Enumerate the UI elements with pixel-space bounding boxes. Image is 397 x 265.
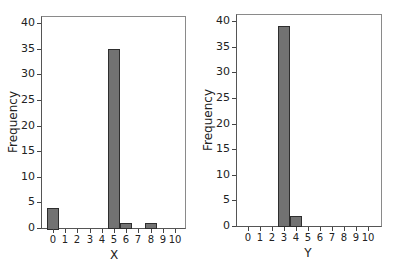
x-tick (344, 227, 345, 231)
y-tick (232, 226, 236, 227)
x-tick (260, 227, 261, 231)
y-tick-label: 35 (13, 43, 35, 54)
x-tick (102, 229, 103, 233)
y-tick (37, 49, 41, 50)
y-tick (232, 47, 236, 48)
y-axis-title: Frequency (201, 80, 215, 160)
histogram-bar (290, 216, 302, 227)
x-tick (138, 229, 139, 233)
x-tick (320, 227, 321, 231)
x-tick (151, 229, 152, 233)
y-tick-label: 40 (208, 15, 230, 26)
y-tick (37, 228, 41, 229)
x-tick (65, 229, 66, 233)
x-tick (284, 227, 285, 231)
x-tick (90, 229, 91, 233)
x-tick (126, 229, 127, 233)
histogram-bar (278, 26, 290, 227)
histogram-bar (108, 49, 120, 229)
y-tick (232, 124, 236, 125)
x-tick (175, 229, 176, 233)
y-tick-label: 0 (208, 220, 230, 231)
x-tick (77, 229, 78, 233)
plot-frame (236, 14, 382, 227)
x-tick (163, 229, 164, 233)
y-tick (37, 100, 41, 101)
y-tick (232, 149, 236, 150)
x-tick (368, 227, 369, 231)
y-tick-label: 35 (208, 41, 230, 52)
y-tick-label: 40 (13, 17, 35, 28)
y-tick-label: 10 (208, 169, 230, 180)
y-tick (37, 74, 41, 75)
x-axis-title: Y (293, 246, 323, 260)
y-tick-label: 30 (208, 66, 230, 77)
x-tick (296, 227, 297, 231)
y-tick (37, 177, 41, 178)
y-axis-title: Frequency (6, 82, 20, 162)
y-tick (232, 98, 236, 99)
histogram-bar (47, 208, 59, 230)
y-tick-label: 5 (208, 194, 230, 205)
y-tick (232, 72, 236, 73)
y-tick-label: 5 (13, 196, 35, 207)
y-tick-label: 0 (13, 222, 35, 233)
x-tick (272, 227, 273, 231)
x-tick-label: 10 (167, 235, 183, 245)
y-tick (232, 175, 236, 176)
x-tick (53, 229, 54, 233)
y-tick (37, 23, 41, 24)
y-tick (232, 200, 236, 201)
x-tick (332, 227, 333, 231)
x-tick (308, 227, 309, 231)
y-tick (37, 126, 41, 127)
y-tick (37, 151, 41, 152)
x-tick (356, 227, 357, 231)
x-axis-title: X (99, 248, 129, 262)
y-tick (232, 21, 236, 22)
y-tick-label: 10 (13, 171, 35, 182)
x-tick (114, 229, 115, 233)
x-tick-label: 10 (360, 233, 376, 243)
y-tick-label: 30 (13, 68, 35, 79)
y-tick (37, 202, 41, 203)
x-tick (248, 227, 249, 231)
